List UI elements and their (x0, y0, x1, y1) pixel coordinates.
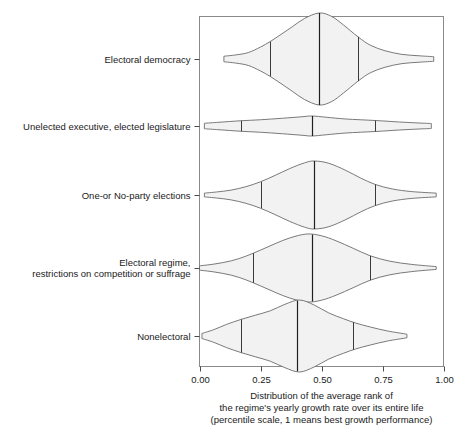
category-label-1: Electoral democracy (104, 54, 190, 65)
violin-series-group (200, 13, 437, 372)
violin-3 (204, 161, 436, 229)
category-label-3: One-or No-party elections (82, 190, 191, 201)
category-label-4: restrictions on competition or suffrage (32, 268, 190, 279)
axis-title-line-1: Distribution of the average rank of (250, 390, 393, 401)
violin-plot-canvas: 0.000.250.500.751.00 Electoral democracy… (0, 0, 455, 446)
x-tick-label-1.00: 1.00 (435, 374, 454, 385)
x-tick-label-0.75: 0.75 (374, 374, 393, 385)
x-axis-ticks (201, 367, 445, 372)
axis-title-line-3: (percentile scale, 1 means best growth p… (211, 414, 433, 425)
violin-body (204, 161, 436, 229)
violin-body (200, 234, 437, 302)
category-label-5: Nonelectoral (137, 331, 190, 342)
violin-chart: 0.000.250.500.751.00 Electoral democracy… (0, 0, 455, 446)
violin-2 (204, 116, 431, 136)
category-label-2: Unelected executive, elected legislature (23, 121, 190, 132)
axis-title-line-2: the regime's yearly growth rate over its… (219, 402, 423, 413)
category-labels-group: Electoral democracyUnelected executive, … (23, 54, 199, 342)
x-tick-label-0.50: 0.50 (313, 374, 332, 385)
violin-1 (224, 13, 434, 105)
violin-body (224, 13, 434, 105)
violin-body (204, 116, 431, 136)
x-axis-tick-labels: 0.000.250.500.751.00 (191, 374, 454, 385)
violin-5 (202, 300, 407, 372)
x-tick-label-0.00: 0.00 (191, 374, 210, 385)
x-axis-title: Distribution of the average rank ofthe r… (211, 390, 433, 425)
violin-body (202, 300, 407, 372)
category-label-4: Electoral regime, (119, 257, 190, 268)
x-tick-label-0.25: 0.25 (252, 374, 271, 385)
violin-4 (200, 234, 437, 302)
